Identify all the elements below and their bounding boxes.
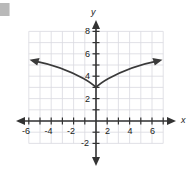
x-tick-label--6: -6 [22, 127, 30, 136]
y-tick-label-4: 4 [85, 72, 90, 81]
x-tick-label-6: 6 [150, 127, 155, 136]
y-tick-label-6: 6 [85, 50, 90, 59]
x-tick-label-4: 4 [128, 127, 133, 136]
x-tick-label--2: -2 [67, 127, 75, 136]
x-tick-label-2: 2 [105, 127, 110, 136]
curve-arrow-right [152, 58, 162, 66]
curve-arrow-left [30, 58, 40, 66]
y-tick-label--2: -2 [81, 139, 89, 148]
x-axis-label: x [181, 116, 186, 125]
graph-figure: -6 -4 -2 2 4 6 8 6 4 2 -2 x y [0, 0, 195, 172]
x-tick-label--4: -4 [45, 127, 53, 136]
y-axis-label: y [91, 8, 96, 17]
y-tick-label-2: 2 [85, 95, 90, 104]
coordinate-plane [0, 0, 195, 172]
y-tick-label-8: 8 [85, 27, 90, 36]
y-axis [92, 20, 100, 166]
